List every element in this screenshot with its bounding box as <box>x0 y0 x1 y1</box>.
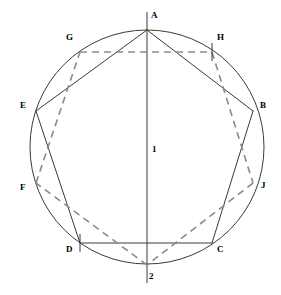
solid-polygon-layer <box>36 30 253 243</box>
dashed-edge-2-f <box>36 183 147 265</box>
vertex-label-g: G <box>66 33 73 42</box>
vertex-label-h: H <box>217 33 224 42</box>
dashed-edge-j-2 <box>147 183 253 265</box>
dashed-polygon-layer <box>36 52 253 265</box>
center-label-1: 1 <box>152 145 157 154</box>
vertex-label-f: F <box>20 183 26 192</box>
vertex-label-j: J <box>261 181 266 190</box>
vertex-label-a: A <box>151 11 158 20</box>
vertex-label-d: D <box>66 245 73 254</box>
vertex-label-e: E <box>20 101 26 110</box>
vertex-tick-layer <box>80 43 212 252</box>
figure-canvas <box>0 0 281 295</box>
dashed-edge-h-j <box>212 52 253 183</box>
vertex-label-b: B <box>260 101 266 110</box>
vertex-label-c: C <box>217 245 224 254</box>
vertex-label-2: 2 <box>149 272 154 281</box>
geometry-figure: AGHEBFJDC21 <box>0 0 281 295</box>
solid-edge-e-a <box>36 30 147 111</box>
solid-edge-b-c <box>212 111 253 243</box>
